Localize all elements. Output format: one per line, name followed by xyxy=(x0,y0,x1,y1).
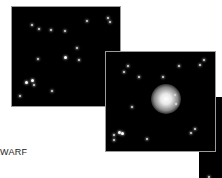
star xyxy=(113,134,115,136)
star xyxy=(175,103,177,105)
star xyxy=(25,81,28,84)
star xyxy=(146,138,148,140)
star xyxy=(127,65,129,67)
star xyxy=(107,17,109,19)
star xyxy=(208,176,210,178)
star xyxy=(121,132,124,135)
star xyxy=(190,132,192,134)
star xyxy=(51,90,53,92)
star xyxy=(174,94,176,96)
star xyxy=(19,95,21,97)
star xyxy=(76,47,78,49)
star xyxy=(199,64,201,66)
star xyxy=(37,58,39,60)
star xyxy=(31,79,34,82)
star xyxy=(64,56,67,59)
star xyxy=(203,59,205,61)
star xyxy=(138,76,140,78)
star xyxy=(33,84,35,86)
star xyxy=(38,28,40,30)
star xyxy=(64,30,66,32)
star xyxy=(113,139,115,141)
figure-caption-fragment: WARF xyxy=(0,147,27,157)
galaxy-glow xyxy=(151,84,181,114)
star xyxy=(86,20,88,22)
star xyxy=(162,76,164,78)
star xyxy=(194,128,196,130)
star xyxy=(50,29,52,31)
star xyxy=(178,65,180,67)
star xyxy=(31,24,33,26)
star xyxy=(109,21,111,23)
star xyxy=(131,106,133,108)
star xyxy=(123,71,125,73)
star-field-image-2 xyxy=(105,51,216,152)
star xyxy=(78,59,80,61)
